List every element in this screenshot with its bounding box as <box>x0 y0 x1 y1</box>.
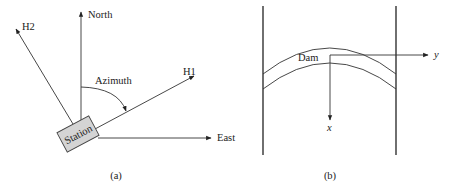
caption-a: (a) <box>110 170 122 182</box>
panel-a: North H2 H1 East Azimuth Station (a) <box>16 9 235 182</box>
station-box: Station <box>57 116 99 152</box>
caption-b: (b) <box>324 170 337 182</box>
dam-label: Dam <box>298 52 318 63</box>
dam-downstream-arc <box>263 63 396 89</box>
y-axis-label: y <box>433 49 439 60</box>
h2-label: H2 <box>22 21 35 32</box>
panel-b: Dam y x (b) <box>263 6 439 182</box>
east-label: East <box>217 132 235 143</box>
north-label: North <box>88 9 113 20</box>
dam-upstream-arc <box>263 48 396 74</box>
h1-label: H1 <box>183 66 196 77</box>
figure-canvas: North H2 H1 East Azimuth Station (a) Dam… <box>0 0 453 186</box>
azimuth-label: Azimuth <box>95 75 132 86</box>
azimuth-arc <box>81 87 126 111</box>
x-axis-label: x <box>326 122 332 133</box>
h2-arrow <box>16 29 73 124</box>
